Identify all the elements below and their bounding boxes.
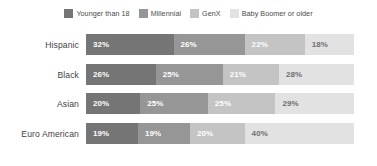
legend-item[interactable]: Millennial (139, 9, 181, 18)
bar-segment[interactable]: 20% (86, 93, 140, 114)
category-axis-label: Euro American (0, 129, 86, 139)
bar-segment-value-label: 28% (286, 70, 302, 79)
bar-segment[interactable]: 25% (156, 64, 223, 85)
bar-segment-value-label: 25% (215, 99, 231, 108)
bar-segment-value-label: 22% (252, 40, 268, 49)
legend-item-label: Baby Boomer or older (242, 9, 313, 18)
bar-segment[interactable]: 32% (86, 34, 174, 55)
bar-segment[interactable]: 19% (86, 123, 138, 144)
chart-row: Euro American19%19%20%40% (0, 123, 377, 144)
chart-legend: Younger than 18MillennialGenXBaby Boomer… (0, 9, 377, 18)
bar-segment[interactable]: 21% (223, 64, 279, 85)
bar-segment[interactable]: 29% (275, 93, 354, 114)
stacked-bar-track: 32%26%22%18% (86, 34, 354, 55)
legend-item-label: Younger than 18 (76, 9, 129, 18)
category-axis-label: Hispanic (0, 40, 86, 50)
chart-row: Hispanic32%26%22%18% (0, 34, 377, 55)
bar-segment[interactable]: 40% (245, 123, 354, 144)
bar-segment-value-label: 26% (181, 40, 197, 49)
legend-swatch-baby-boomer-or-older (230, 9, 239, 18)
category-axis-label: Black (0, 70, 86, 80)
bar-segment-value-label: 40% (252, 129, 268, 138)
legend-item[interactable]: Younger than 18 (64, 9, 129, 18)
legend-item[interactable]: GenX (190, 9, 221, 18)
stacked-bar-track: 19%19%20%40% (86, 123, 354, 144)
chart-row: Asian20%25%25%29% (0, 93, 377, 114)
legend-swatch-genx (190, 9, 199, 18)
bar-segment[interactable]: 20% (190, 123, 245, 144)
bar-segment[interactable]: 28% (279, 64, 354, 85)
category-axis-label: Asian (0, 99, 86, 109)
bar-segment-value-label: 18% (312, 40, 328, 49)
stacked-bar-track: 20%25%25%29% (86, 93, 354, 114)
stacked-bar-track: 26%25%21%28% (86, 64, 354, 85)
stacked-bar-chart: Younger than 18MillennialGenXBaby Boomer… (0, 0, 377, 166)
bar-segment[interactable]: 25% (208, 93, 276, 114)
bar-segment-value-label: 19% (145, 129, 161, 138)
legend-item[interactable]: Baby Boomer or older (230, 9, 313, 18)
bar-segment-value-label: 26% (93, 70, 109, 79)
legend-swatch-younger-than-18 (64, 9, 73, 18)
bar-segment-value-label: 25% (163, 70, 179, 79)
bar-segment[interactable]: 18% (305, 34, 354, 55)
chart-plot-area: Hispanic32%26%22%18%Black26%25%21%28%Asi… (0, 30, 377, 162)
chart-row: Black26%25%21%28% (0, 64, 377, 85)
bar-segment[interactable]: 25% (140, 93, 208, 114)
bar-segment-value-label: 21% (230, 70, 246, 79)
bar-segment-value-label: 20% (197, 129, 213, 138)
legend-item-label: GenX (202, 9, 221, 18)
bar-segment[interactable]: 26% (86, 64, 156, 85)
legend-swatch-millennial (139, 9, 148, 18)
bar-segment-value-label: 19% (93, 129, 109, 138)
bar-segment-value-label: 29% (282, 99, 298, 108)
bar-segment[interactable]: 19% (138, 123, 190, 144)
bar-segment[interactable]: 22% (245, 34, 305, 55)
bar-segment-value-label: 32% (93, 40, 109, 49)
bar-segment-value-label: 25% (147, 99, 163, 108)
bar-segment[interactable]: 26% (174, 34, 245, 55)
bar-segment-value-label: 20% (93, 99, 109, 108)
legend-item-label: Millennial (151, 9, 181, 18)
